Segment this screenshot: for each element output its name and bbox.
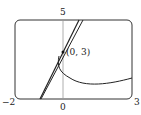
point-label: (0, 3)	[66, 48, 90, 57]
tangent-line	[40, 20, 79, 99]
point-marker	[62, 51, 65, 54]
y-max-label: 5	[60, 8, 66, 17]
x-zero-label: 0	[60, 103, 66, 112]
curve	[58, 56, 132, 84]
chart-plot	[0, 0, 141, 115]
x-min-label: −2	[2, 98, 15, 107]
x-max-label: 3	[134, 98, 140, 107]
secant-line	[41, 20, 83, 99]
